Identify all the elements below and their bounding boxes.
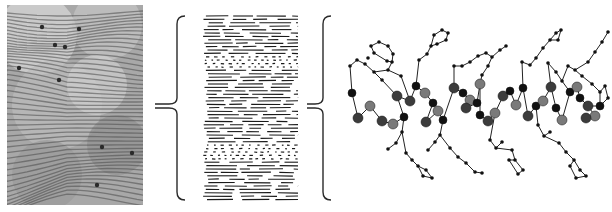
brace-icon [150, 10, 190, 206]
lamellar-layers [200, 10, 305, 206]
lamellae-schematic [200, 10, 305, 206]
micrograph-image [7, 5, 143, 205]
bracket-left [150, 10, 190, 206]
fringe-pattern [7, 5, 143, 205]
ball-and-stick-model [330, 0, 612, 212]
molecular-model [330, 0, 612, 212]
